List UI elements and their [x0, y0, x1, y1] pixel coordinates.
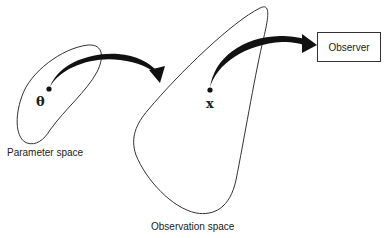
- x-symbol: x: [206, 96, 214, 111]
- arrow-theta-to-observation: [50, 54, 158, 87]
- observation-space-label: Observation space: [151, 221, 234, 232]
- theta-point: [46, 86, 51, 91]
- observer-box: Observer: [317, 32, 381, 62]
- arrowhead-2-icon: [302, 34, 317, 53]
- theta-symbol: θ: [36, 94, 45, 109]
- observer-label: Observer: [328, 42, 369, 53]
- x-point: [207, 87, 212, 92]
- observation-space-region: [134, 7, 268, 214]
- parameter-space-label: Parameter space: [7, 147, 83, 158]
